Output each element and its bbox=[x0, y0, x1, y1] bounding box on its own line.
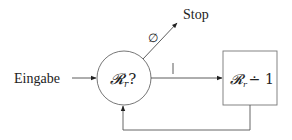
input-label: Eingabe bbox=[14, 71, 60, 86]
action-label: 𝓡r∸ 1 bbox=[230, 71, 274, 89]
stop-label: Stop bbox=[183, 7, 209, 22]
decision-node bbox=[97, 51, 151, 105]
flow-diagram: Eingabe 𝓡r? Stop ∅ 𝓡r∸ 1 bbox=[0, 0, 292, 140]
decision-label: 𝓡r? bbox=[110, 70, 136, 89]
feedback-loop-arrow bbox=[123, 105, 250, 130]
empty-set-label: ∅ bbox=[148, 31, 158, 45]
